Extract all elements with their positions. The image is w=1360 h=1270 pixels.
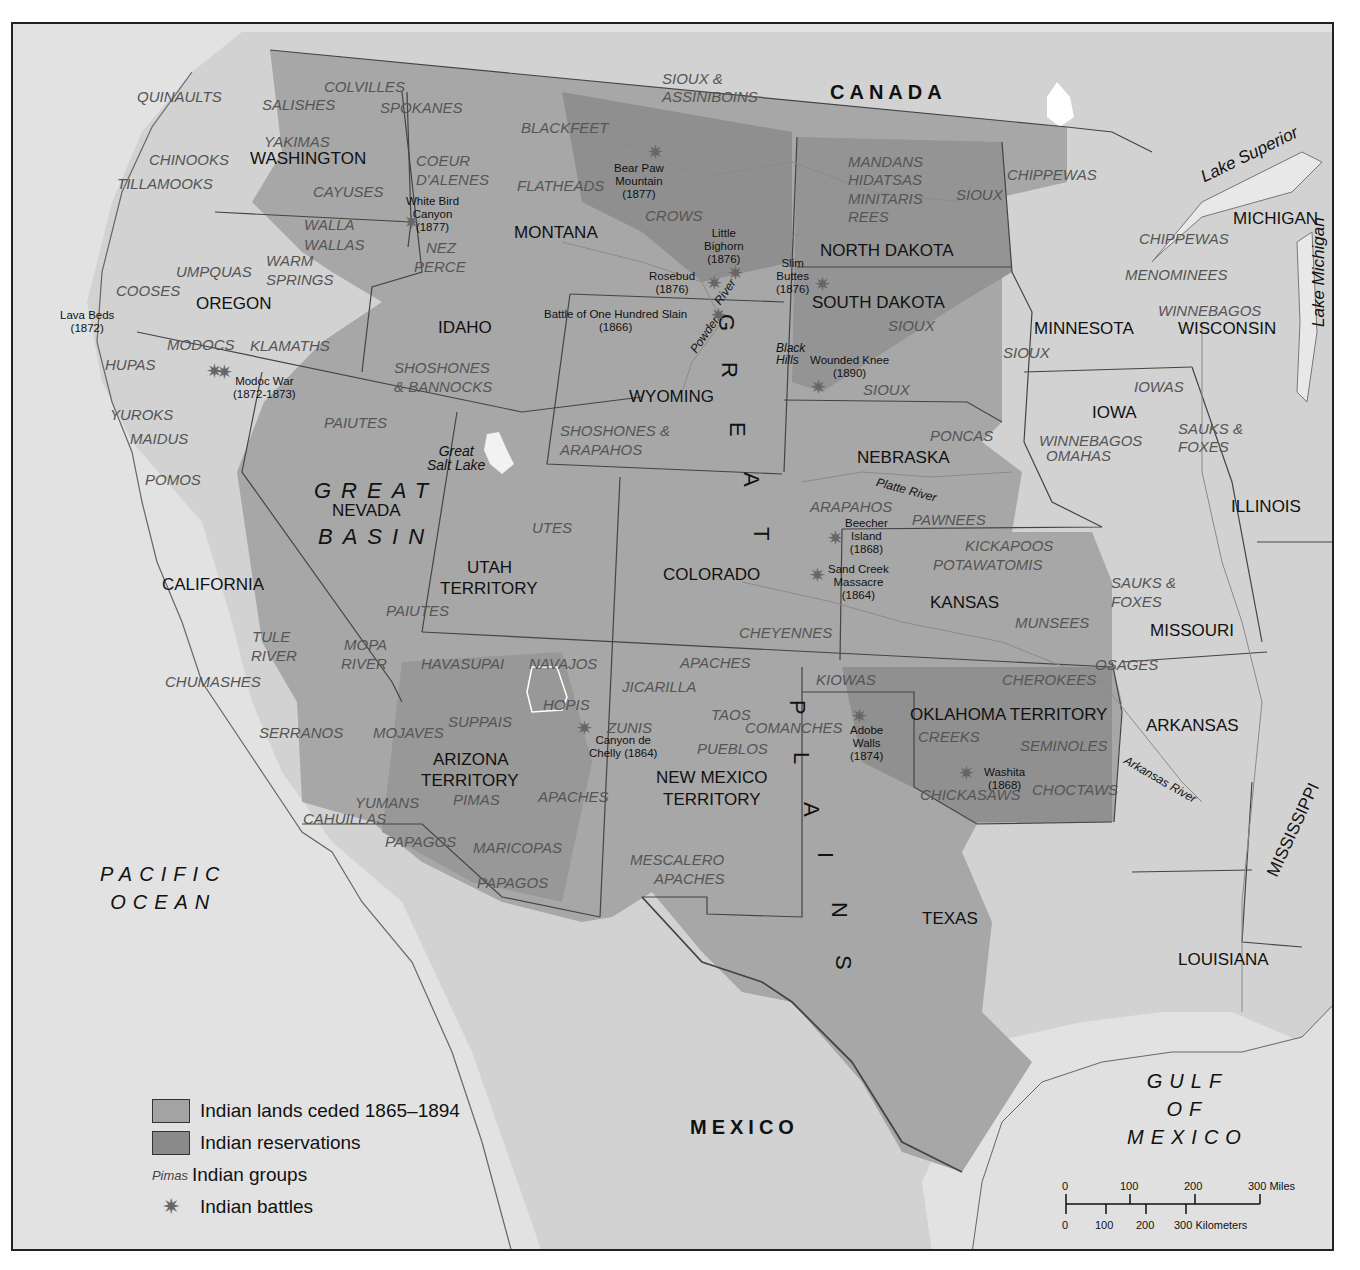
battle-star-icon: ✷: [647, 142, 664, 162]
lake-label: Great Salt Lake: [427, 444, 485, 472]
state-label: NORTH DAKOTA: [820, 242, 954, 259]
battle-star-icon: ✷: [851, 706, 868, 726]
battle-label: Slim Buttes (1876): [776, 257, 809, 297]
tribe-label: WALLAS: [304, 237, 365, 252]
battle-label: Canyon de Chelly (1864): [589, 734, 657, 760]
ocean-label: PACIFIC OCEAN: [100, 860, 226, 916]
battle-label: Modoc War (1872-1873): [233, 375, 296, 401]
great-plains-letter: L: [790, 752, 812, 764]
country-label: MEXICO: [690, 1117, 799, 1137]
legend-item-reservations: Indian reservations: [152, 1127, 460, 1159]
state-label: ARKANSAS: [1146, 717, 1239, 734]
battle-star-icon: ✷: [809, 565, 826, 585]
tribe-label: OSAGES: [1095, 657, 1158, 672]
tribe-label: MOJAVES: [373, 725, 444, 740]
region-label: GREAT: [314, 480, 438, 502]
great-plains-letter: A: [800, 802, 822, 817]
scale-km-0: 0: [1062, 1219, 1068, 1231]
tribe-label: PONCAS: [930, 428, 993, 443]
tribe-label: CHOCTAWS: [1032, 782, 1118, 797]
tribe-label: WARM: [266, 253, 313, 268]
tribe-label: SIOUX: [956, 187, 1003, 202]
battle-star-icon: ✷: [958, 763, 975, 783]
tribe-label: COMANCHES: [745, 720, 843, 735]
battle-label: Bear Paw Mountain (1877): [614, 162, 664, 202]
tribe-label: UTES: [532, 520, 572, 535]
tribe-label: SPOKANES: [380, 100, 463, 115]
state-label: TERRITORY: [421, 772, 519, 789]
legend-label: Indian groups: [192, 1164, 307, 1186]
tribe-label: SUPPAIS: [448, 714, 512, 729]
tribe-label: APACHES: [654, 871, 725, 886]
tribe-label: MANDANS: [848, 154, 923, 169]
tribe-label: FOXES: [1178, 439, 1229, 454]
tribe-label: TILLAMOOKS: [117, 176, 213, 191]
lake-label: Lake Superior: [1198, 124, 1301, 186]
legend-label: Indian reservations: [200, 1132, 361, 1154]
great-plains-letter: A: [740, 472, 762, 487]
tribe-label: PIMAS: [453, 792, 500, 807]
state-label: TERRITORY: [440, 580, 538, 597]
ocean-label: GULF OF MEXICO: [1127, 1067, 1248, 1151]
tribe-label: UMPQUAS: [176, 264, 252, 279]
tribe-label: COEUR: [416, 153, 470, 168]
battle-star-icon: ✷: [403, 212, 420, 232]
scale-km-100: 100: [1095, 1219, 1113, 1231]
state-label: NEBRASKA: [857, 449, 950, 466]
tribe-label: SALISHES: [262, 97, 335, 112]
tribe-label: CROWS: [645, 208, 703, 223]
tribe-label: SPRINGS: [266, 272, 334, 287]
legend-item-groups: Pimas Indian groups: [146, 1159, 460, 1191]
tribe-label: KIOWAS: [816, 672, 876, 687]
battle-label: Adobe Walls (1874): [850, 724, 883, 764]
tribe-label: MENOMINEES: [1125, 267, 1228, 282]
tribe-label: RIVER: [251, 648, 297, 663]
scale-bar: 0 100 200 300 Miles 0 100 200 300 Kilome…: [1062, 1180, 1312, 1240]
battle-star-icon: ✷: [727, 263, 744, 283]
battle-star-icon: ✷: [152, 1194, 190, 1220]
tribe-label: KICKAPOOS: [965, 538, 1053, 553]
scale-mile-300: 300 Miles: [1248, 1180, 1295, 1192]
tribe-label: YAKIMAS: [264, 134, 330, 149]
state-label: TEXAS: [922, 910, 978, 927]
great-plains-letter: E: [726, 422, 748, 437]
tribe-label: HAVASUPAI: [421, 656, 504, 671]
tribe-label: MESCALERO: [630, 852, 724, 867]
great-plains-letter: I: [814, 852, 836, 858]
tribe-label: SAUKS &: [1178, 421, 1243, 436]
tribe-label: MOPA: [344, 637, 387, 652]
scale-km-200: 200: [1136, 1219, 1154, 1231]
tribe-label: PAPAGOS: [385, 834, 456, 849]
map-frame: CANADAMEXICOPACIFIC OCEANGULF OF MEXICOG…: [11, 22, 1334, 1251]
tribe-label: QUINAULTS: [137, 89, 222, 104]
river-label: Arkansas River: [1122, 754, 1198, 805]
state-label: MONTANA: [514, 224, 598, 241]
legend-label: Indian battles: [200, 1196, 313, 1218]
scale-km-300: 300 Kilometers: [1174, 1219, 1247, 1231]
tribe-label: KLAMATHS: [250, 338, 330, 353]
map-labels: CANADAMEXICOPACIFIC OCEANGULF OF MEXICOG…: [11, 22, 1334, 1251]
battle-label: Battle of One Hundred Slain (1866): [544, 308, 687, 334]
tribe-label: SIOUX: [863, 382, 910, 397]
state-label: WYOMING: [629, 388, 714, 405]
legend-sample-text: Pimas: [146, 1168, 188, 1183]
battle-label: Lava Beds (1872): [60, 309, 114, 335]
battle-star-icon: ✷: [216, 362, 233, 382]
battle-label: Beecher Island (1868): [845, 517, 888, 557]
tribe-label: APACHES: [680, 655, 751, 670]
ceded-lands-swatch: [152, 1099, 190, 1123]
tribe-label: CREEKS: [918, 729, 980, 744]
battle-label: Little Bighorn (1876): [704, 227, 744, 267]
battle-star-icon: ✷: [576, 718, 593, 738]
battle-label: Sand Creek Massacre (1864): [828, 563, 889, 603]
tribe-label: SEMINOLES: [1020, 738, 1108, 753]
tribe-label: COLVILLES: [324, 79, 405, 94]
state-label: KANSAS: [930, 594, 999, 611]
great-plains-letter: N: [828, 902, 850, 918]
country-label: CANADA: [830, 82, 947, 102]
battle-label: Rosebud (1876): [649, 270, 695, 296]
great-plains-letter: P: [786, 700, 808, 715]
tribe-label: CHEYENNES: [739, 625, 832, 640]
state-label: MINNESOTA: [1034, 320, 1134, 337]
battle-label: Washita (1868): [984, 766, 1025, 792]
